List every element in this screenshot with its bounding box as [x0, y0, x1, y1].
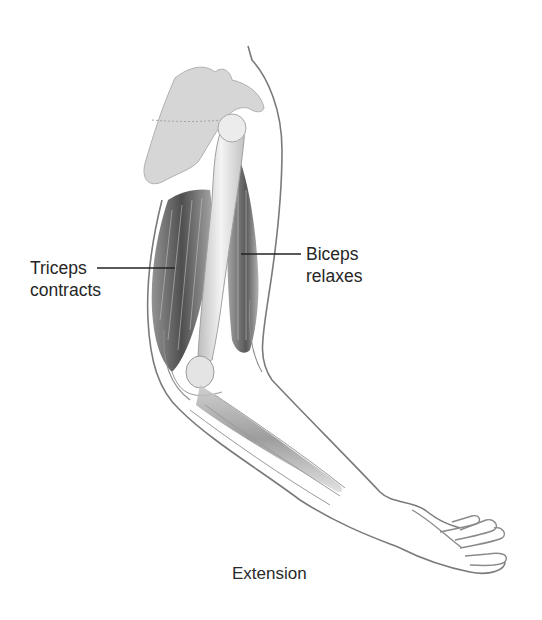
- triceps-label: Triceps contracts: [30, 257, 101, 301]
- triceps-label-line2: contracts: [30, 279, 101, 301]
- hand-outline: [412, 510, 506, 565]
- diagram-caption: Extension: [232, 564, 307, 584]
- arm-extension-diagram: Triceps contracts Biceps relaxes Extensi…: [0, 0, 542, 620]
- elbow-joint: [186, 356, 214, 388]
- biceps-label: Biceps relaxes: [306, 243, 362, 287]
- triceps-label-line1: Triceps: [30, 257, 101, 279]
- forearm-muscles: [196, 385, 342, 492]
- biceps-label-line2: relaxes: [306, 265, 362, 287]
- arm-illustration: [0, 0, 542, 620]
- biceps-label-line1: Biceps: [306, 243, 362, 265]
- humeral-head: [218, 114, 246, 142]
